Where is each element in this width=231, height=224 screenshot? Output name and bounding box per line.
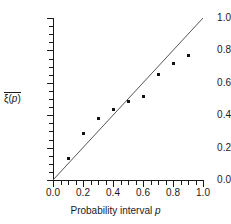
x-axis-minor-tick [158,181,159,185]
data-point [142,95,145,98]
x-axis-minor-tick [91,181,92,185]
data-point [157,73,160,76]
y-axis-paren-close: ) [17,93,20,104]
data-point [172,62,175,65]
x-axis-minor-tick [128,181,129,185]
x-axis-minor-tick [121,181,122,185]
data-point [67,157,70,160]
data-point [97,117,100,120]
y-axis-title-overbar: ξ(p) [4,92,21,104]
data-point [127,100,130,103]
scatter-chart-figure: 0.00.20.40.60.81.0 0.00.20.40.60.81.0 ξ(… [0,0,231,224]
x-axis-minor-tick [136,181,137,185]
x-axis-title: Probability interval p [0,205,231,216]
x-axis-minor-tick [76,181,77,185]
y-axis-title: ξ(p) [4,92,21,104]
x-axis-minor-tick [61,181,62,185]
x-axis-minor-tick [98,181,99,185]
x-axis-minor-tick [68,181,69,185]
x-axis-minor-tick [181,181,182,185]
x-axis-minor-tick [106,181,107,185]
data-point [82,132,85,135]
x-axis-minor-tick [151,181,152,185]
x-axis-title-text: Probability interval [70,205,154,216]
data-point [187,54,190,57]
x-axis-tick-label: 1.0 [183,188,223,198]
x-axis-variable: p [155,205,161,216]
x-axis-minor-tick [166,181,167,185]
data-point [112,108,115,111]
plot-area [53,18,203,180]
